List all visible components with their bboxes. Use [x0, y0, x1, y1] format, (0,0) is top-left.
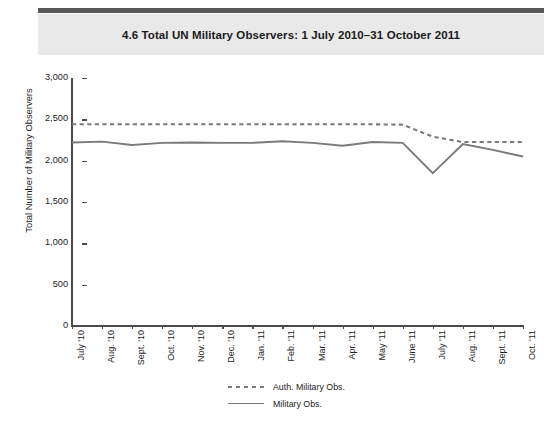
series-paths	[72, 78, 523, 326]
x-tick-label: Mar. '11	[317, 330, 327, 361]
x-tick-label: Oct. '11	[527, 330, 537, 360]
x-tick-label: Sept. '10	[136, 330, 146, 365]
x-tick-label: Apr. '11	[347, 330, 357, 360]
legend-item[interactable]: Military Obs.	[228, 395, 468, 412]
x-tick-label: May '11	[377, 330, 387, 361]
chart-legend: Auth. Military Obs.Military Obs.	[228, 378, 468, 412]
y-tick-label: 0	[22, 321, 68, 330]
x-tick-mark	[523, 325, 524, 329]
x-tick-label: Nov. '10	[196, 330, 206, 362]
x-tick-label: July '10	[76, 330, 86, 360]
header-top-rule	[38, 8, 544, 13]
x-tick-label: July '11	[437, 330, 447, 360]
legend-item[interactable]: Auth. Military Obs.	[228, 378, 468, 395]
x-tick-label: June '11	[407, 330, 417, 363]
x-tick-label: Jan. '11	[256, 330, 266, 361]
x-tick-label: Oct. '10	[166, 330, 176, 361]
x-tick-label: Aug. '11	[467, 330, 477, 362]
series-line-military-obs	[72, 141, 523, 173]
y-tick-label: 500	[22, 280, 68, 289]
legend-swatch-solid	[228, 399, 264, 409]
page-title: 4.6 Total UN Military Observers: 1 July …	[38, 14, 544, 55]
legend-swatch-dashed	[228, 382, 264, 392]
legend-label: Military Obs.	[273, 399, 322, 409]
x-tick-label: Aug. '10	[106, 330, 116, 363]
x-tick-label: Sept. '11	[497, 330, 507, 365]
legend-label: Auth. Military Obs.	[273, 382, 345, 392]
plot-region	[72, 78, 523, 326]
x-tick-label: Dec. '10	[226, 330, 236, 363]
chart-page: 4.6 Total UN Military Observers: 1 July …	[0, 0, 552, 429]
series-line-auth-military-obs	[72, 124, 523, 142]
x-tick-label: Feb. '11	[286, 330, 296, 362]
y-axis-title: Total Number of Military Observers	[23, 51, 34, 271]
chart-area: 05001,0001,5002,0002,5003,000 Total Numb…	[0, 55, 552, 429]
y-tick-mark	[82, 326, 87, 327]
